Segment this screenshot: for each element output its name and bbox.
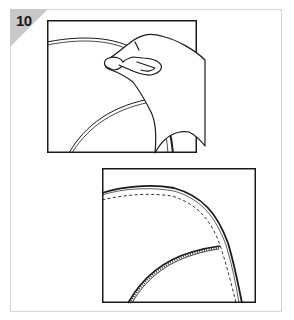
step-badge: 10 <box>10 9 48 47</box>
step-number: 10 <box>16 12 32 29</box>
stitched-seam-illustration <box>102 168 256 303</box>
illustration-panel-bottom <box>102 168 256 303</box>
hand-smoothing-edge-illustration <box>47 20 197 153</box>
illustration-panel-top <box>47 20 197 153</box>
